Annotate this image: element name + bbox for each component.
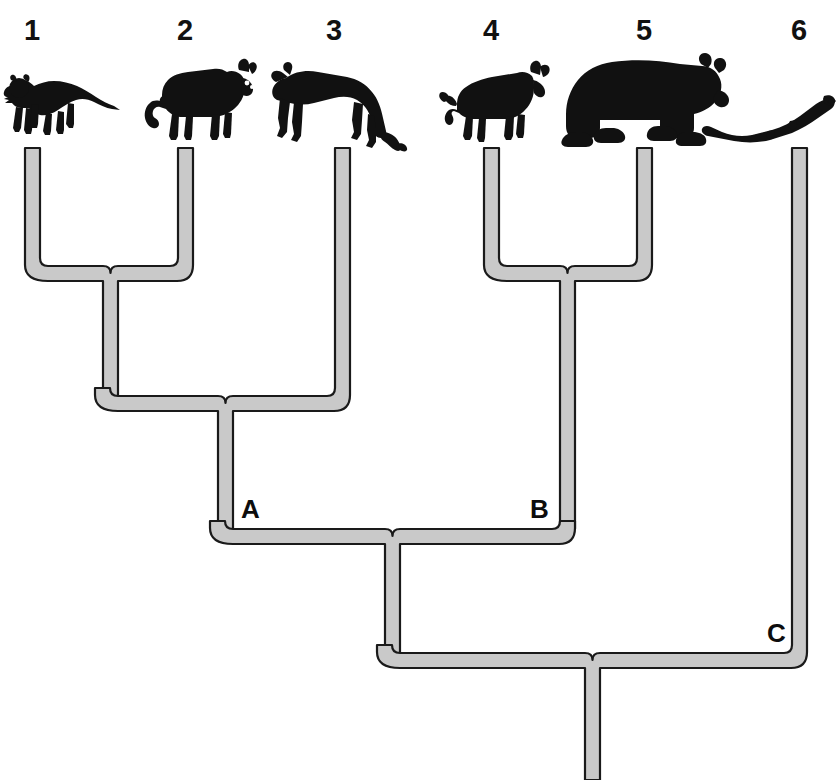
taxon-number-1: 1	[12, 16, 52, 45]
node-b-label: B	[530, 496, 549, 522]
branch-clade-1-2	[25, 148, 193, 396]
taxon-number-3: 3	[314, 16, 354, 45]
cat-silhouette	[142, 56, 258, 142]
node-a-label: A	[241, 496, 260, 522]
branch-clade-c-root	[377, 148, 807, 780]
branch-clade-12-3	[95, 148, 350, 529]
large-cat-silhouette	[268, 56, 408, 152]
branch-clade-b-4-5	[484, 148, 652, 529]
dog-silhouette	[432, 60, 552, 142]
taxon-number-5: 5	[624, 16, 664, 45]
taxon-number-2: 2	[165, 16, 205, 45]
lizard-silhouette	[700, 92, 836, 144]
small-mammal-silhouette	[2, 58, 122, 140]
taxon-number-6: 6	[779, 16, 819, 45]
node-c-label: C	[767, 620, 786, 646]
cladogram-figure: 1 2 3 4 5 6 A B C	[0, 0, 836, 780]
taxon-number-4: 4	[471, 16, 511, 45]
branch-clade-a-b	[210, 521, 575, 653]
